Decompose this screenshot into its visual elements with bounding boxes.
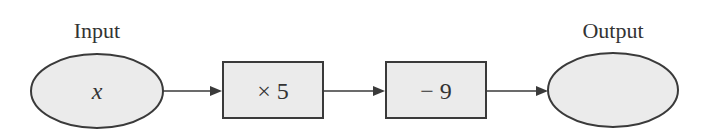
step-subtract-node: − 9 bbox=[386, 62, 486, 118]
arrow-input-to-step1 bbox=[163, 86, 222, 96]
input-label: Input bbox=[74, 18, 120, 43]
step-subtract-label: − 9 bbox=[420, 78, 452, 104]
arrow-step1-to-step2 bbox=[323, 86, 385, 96]
input-node: x bbox=[31, 54, 163, 128]
output-ellipse bbox=[548, 53, 678, 127]
step-multiply-label: × 5 bbox=[257, 78, 289, 104]
output-node bbox=[548, 53, 678, 127]
output-label: Output bbox=[582, 18, 643, 43]
input-value: x bbox=[91, 78, 103, 104]
arrow-step2-to-output bbox=[486, 86, 548, 96]
step-multiply-node: × 5 bbox=[223, 62, 323, 118]
function-machine-diagram: Input x × 5 − 9 Output bbox=[0, 0, 707, 135]
